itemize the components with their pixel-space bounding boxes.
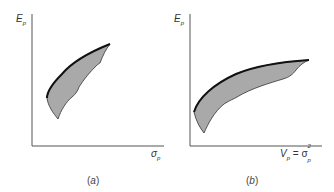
- panel-a-y-axis-label: Ep: [16, 14, 26, 26]
- y-label-subscript: p: [181, 20, 184, 26]
- caption-paren-close: ): [255, 175, 258, 186]
- figure-canvas: [0, 0, 334, 192]
- panel-a-x-axis-label: σp: [151, 149, 160, 161]
- x-label-symbol: V: [280, 148, 287, 159]
- panel-a-feasible-region: [47, 44, 110, 119]
- y-label-symbol: E: [174, 13, 181, 24]
- y-label-subscript: p: [23, 20, 26, 26]
- x-label-equals: = σ: [290, 148, 308, 159]
- panel-b-feasible-region: [194, 60, 309, 133]
- caption-paren-close: ): [96, 175, 99, 186]
- panel-b-y-axis-label: Ep: [174, 14, 184, 26]
- x-label-subscript-2: p: [308, 157, 311, 163]
- panel-b-x-axis-label: Vp = σ2p: [280, 149, 311, 161]
- y-label-symbol: E: [16, 13, 23, 24]
- panel-a: [32, 14, 164, 146]
- panel-a-caption: (a): [87, 176, 99, 186]
- x-label-superscript: 2: [308, 143, 311, 149]
- panel-b-caption: (b): [246, 176, 258, 186]
- panel-b: [190, 14, 322, 146]
- x-label-subscript: p: [157, 155, 160, 161]
